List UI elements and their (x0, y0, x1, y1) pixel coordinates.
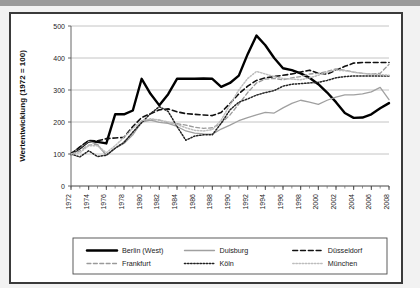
chart-frame: 0100200300400500197219741976197819801982… (9, 12, 403, 284)
y-tick-label-300: 300 (53, 87, 65, 94)
x-tick-label-1992: 1992 (242, 194, 249, 210)
x-tick-label-1990: 1990 (224, 194, 231, 210)
legend-label-frankfurt: Frankfurt (122, 259, 151, 268)
x-tick-label-1996: 1996 (277, 194, 284, 210)
x-tick-label-1984: 1984 (171, 194, 178, 210)
x-tick-label-1998: 1998 (295, 194, 302, 210)
y-tick-label-100: 100 (53, 151, 65, 158)
line-chart: 0100200300400500197219741976197819801982… (11, 14, 401, 282)
x-tick-label-1986: 1986 (189, 194, 196, 210)
x-tick-label-1994: 1994 (259, 194, 266, 210)
x-tick-label-2000: 2000 (312, 194, 319, 210)
y-tick-label-0: 0 (61, 183, 65, 190)
scan-edge-top (0, 0, 420, 6)
x-tick-label-1974: 1974 (83, 194, 90, 210)
x-tick-label-1972: 1972 (65, 194, 72, 210)
legend-label-berlin-west: Berlin (West) (122, 246, 163, 255)
x-tick-label-2008: 2008 (383, 194, 390, 210)
x-tick-label-2002: 2002 (330, 194, 337, 210)
scan-edge-bottom (0, 288, 420, 295)
legend-box (73, 238, 387, 274)
x-tick-label-2004: 2004 (348, 194, 355, 210)
legend-label-d-sseldorf: Düsseldorf (328, 246, 362, 255)
y-tick-label-500: 500 (53, 23, 65, 30)
legend-label-m-nchen: München (328, 259, 358, 268)
legend-label-duisburg: Duisburg (219, 246, 248, 255)
x-tick-label-1978: 1978 (118, 194, 125, 210)
x-tick-label-2006: 2006 (365, 194, 372, 210)
legend-label-k-ln: Köln (219, 259, 233, 268)
x-tick-label-1988: 1988 (206, 194, 213, 210)
y-axis-title: Wertentwicklung (1972 = 100) (18, 50, 27, 162)
x-tick-label-1976: 1976 (100, 194, 107, 210)
x-tick-label-1980: 1980 (136, 194, 143, 210)
y-tick-label-400: 400 (53, 55, 65, 62)
chart-page: 0100200300400500197219741976197819801982… (0, 0, 420, 295)
y-tick-label-200: 200 (53, 119, 65, 126)
x-tick-label-1982: 1982 (153, 194, 160, 210)
